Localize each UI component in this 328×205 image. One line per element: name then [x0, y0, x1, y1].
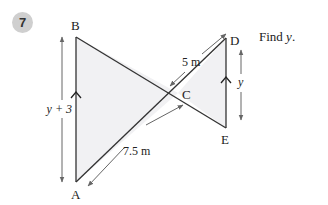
label-AB-length: y + 3 [46, 102, 72, 116]
point-label-A: A [71, 187, 81, 202]
point-label-C: C [182, 87, 191, 102]
label-CD-length: 5 m [182, 55, 201, 69]
triangle-ABC [76, 37, 178, 182]
point-label-D: D [230, 33, 239, 48]
label-AC-length: 7.5 m [123, 144, 151, 158]
similar-triangles-diagram: y + 3 y 7.5 m 5 m B A C D E [0, 0, 328, 205]
point-label-B: B [71, 18, 80, 33]
triangle-CDE [178, 38, 226, 128]
point-label-E: E [221, 132, 229, 147]
label-DE-length: y [237, 75, 244, 89]
